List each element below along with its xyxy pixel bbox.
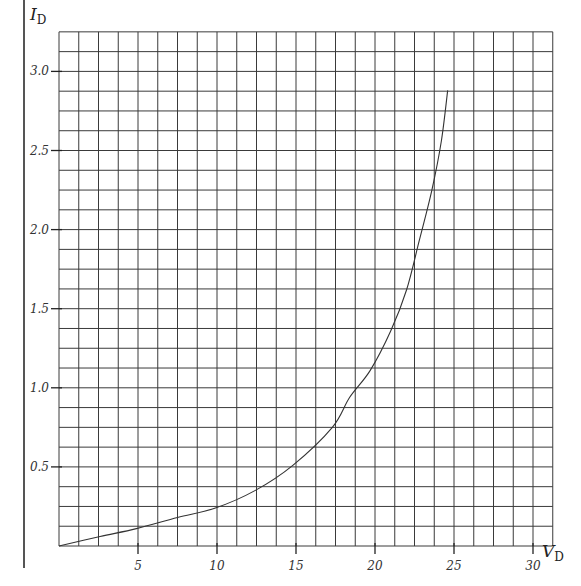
- y-tick-label: 0.5: [30, 460, 49, 474]
- x-tick-label: 30: [525, 559, 541, 573]
- x-tick-label: 10: [209, 559, 225, 573]
- tick-labels: 510152025300.51.01.52.02.53.0: [29, 64, 541, 573]
- chart: 510152025300.51.01.52.02.53.0 ID VD: [0, 0, 581, 586]
- y-axis-title: ID: [29, 4, 46, 27]
- y-tick-label: 1.0: [30, 381, 49, 395]
- y-tick-label: 2.5: [29, 144, 49, 158]
- x-axis-title: VD: [542, 541, 564, 564]
- y-tick-label: 3.0: [30, 64, 49, 78]
- grid: [59, 32, 553, 546]
- y-tick-label: 1.5: [30, 302, 49, 316]
- x-tick-label: 25: [445, 559, 461, 573]
- x-tick-label: 15: [288, 559, 303, 573]
- data-curve: [59, 90, 448, 546]
- x-tick-label: 20: [366, 559, 383, 573]
- x-tick-label: 5: [134, 559, 142, 573]
- y-tick-label: 2.0: [29, 223, 49, 237]
- axis-ticks: [51, 71, 533, 554]
